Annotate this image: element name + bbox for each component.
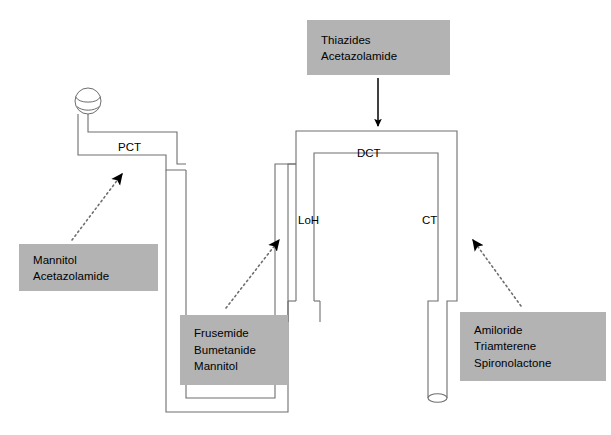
dct-ct-tubule-outline <box>288 131 457 398</box>
drug-box-amiloride: Amiloride Triamterene Spironolactone <box>460 312 606 381</box>
nephron-diagram-figure: PCT DCT LoH CT Thiazides Acetazolamide M… <box>0 0 611 435</box>
label-pct: PCT <box>118 141 141 154</box>
collecting-duct-open-end <box>428 394 447 402</box>
label-dct: DCT <box>357 147 381 160</box>
frusemide-to-loh-arrow <box>226 240 279 308</box>
amiloride-to-ct-arrow <box>473 240 521 306</box>
drug-box-mannitol: Mannitol Acetazolamide <box>19 244 158 291</box>
drug-box-frusemide: Frusemide Bumetanide Mannitol <box>180 315 288 385</box>
label-ct: CT <box>422 214 437 227</box>
drug-box-frusemide-text: Frusemide Bumetanide Mannitol <box>194 325 256 375</box>
drug-box-mannitol-text: Mannitol Acetazolamide <box>33 251 109 284</box>
drug-box-amiloride-text: Amiloride Triamterene Spironolactone <box>474 322 551 372</box>
drug-box-thiazides-text: Thiazides Acetazolamide <box>321 31 397 64</box>
label-loh: LoH <box>298 214 319 227</box>
glomerulus-icon <box>75 88 101 114</box>
mannitol-to-pct-arrow <box>72 174 122 240</box>
drug-box-thiazides: Thiazides Acetazolamide <box>307 20 450 75</box>
